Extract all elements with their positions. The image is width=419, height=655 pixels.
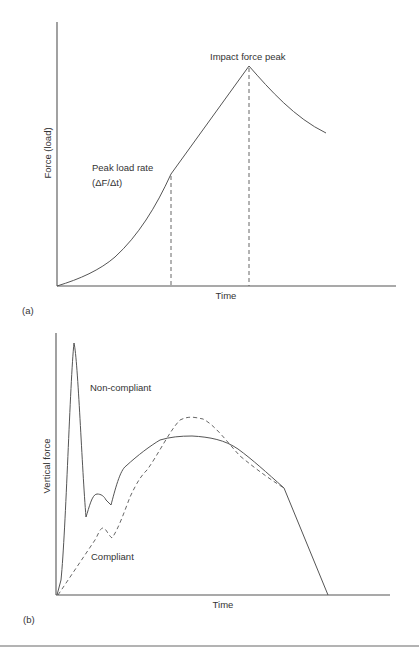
figure-canvas: Impact force peak Peak load rate (ΔF/Δt)… — [0, 0, 419, 655]
compliant-curve — [58, 417, 284, 595]
panel-a-y-label: Force (load) — [42, 127, 53, 178]
panel-a-force-curve — [57, 66, 326, 286]
panel-b-x-label: Time — [213, 599, 234, 610]
compliant-label: Compliant — [91, 551, 134, 562]
impact-peak-label: Impact force peak — [210, 51, 286, 62]
panel-a: Impact force peak Peak load rate (ΔF/Δt)… — [22, 22, 396, 316]
panel-b: Non-compliant Compliant Vertical force T… — [23, 333, 390, 625]
panel-b-tag: (b) — [23, 614, 35, 625]
load-rate-label: Peak load rate — [92, 162, 153, 173]
non-compliant-label: Non-compliant — [90, 382, 152, 393]
load-rate-formula: (ΔF/Δt) — [92, 177, 122, 188]
panel-a-x-label: Time — [216, 290, 237, 301]
panel-a-tag: (a) — [22, 305, 34, 316]
panel-b-y-label: Vertical force — [41, 439, 52, 494]
